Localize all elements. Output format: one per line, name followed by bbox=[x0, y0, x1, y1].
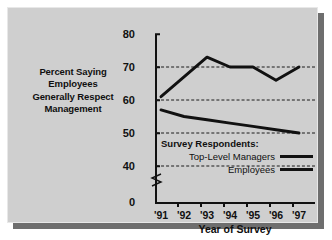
x-tick-label-97: '97 bbox=[292, 209, 306, 221]
x-tick-mark-94 bbox=[246, 202, 248, 207]
y-tick-label-40: 40 bbox=[123, 160, 139, 172]
x-tick-mark-96 bbox=[292, 202, 294, 207]
series-lines bbox=[139, 26, 319, 226]
chart-legend: Survey Respondents: Top-Level Managers E… bbox=[161, 138, 313, 176]
title-line-1: Percent Saying bbox=[18, 66, 128, 78]
x-axis-title: Year of Survey bbox=[155, 223, 315, 235]
title-line-3: Generally Respect bbox=[18, 91, 128, 103]
x-tick-label-95: '95 bbox=[246, 209, 260, 221]
title-line-2: Employees bbox=[18, 78, 128, 90]
y-tick-label-50: 50 bbox=[123, 127, 139, 139]
chart-figure: Percent Saying Employees Generally Respe… bbox=[0, 0, 332, 240]
title-line-4: Management bbox=[18, 103, 128, 115]
legend-swatch-employees bbox=[280, 168, 313, 172]
y-tick-label-0: 0 bbox=[129, 196, 139, 208]
legend-swatch-top-level-managers bbox=[280, 155, 313, 158]
x-tick-mark-93 bbox=[223, 202, 225, 207]
x-tick-label-94: '94 bbox=[223, 209, 237, 221]
x-tick-label-93: '93 bbox=[200, 209, 214, 221]
legend-title: Survey Respondents: bbox=[161, 138, 313, 149]
x-tick-mark-91 bbox=[177, 202, 179, 207]
x-tick-mark-92 bbox=[200, 202, 202, 207]
legend-label-employees: Employees bbox=[228, 164, 275, 175]
legend-label-top-level-managers: Top-Level Managers bbox=[189, 151, 275, 162]
y-tick-label-60: 60 bbox=[123, 94, 139, 106]
chart-panel: Percent Saying Employees Generally Respe… bbox=[7, 7, 318, 223]
x-tick-label-91: '91 bbox=[154, 209, 168, 221]
x-tick-label-96: '96 bbox=[269, 209, 283, 221]
y-tick-label-80: 80 bbox=[123, 28, 139, 40]
x-tick-label-92: '92 bbox=[177, 209, 191, 221]
y-tick-label-70: 70 bbox=[123, 61, 139, 73]
series-line-top-level-managers bbox=[161, 57, 299, 97]
legend-item-employees: Employees bbox=[161, 163, 313, 176]
x-tick-mark-95 bbox=[269, 202, 271, 207]
page-title: Percent Saying Employees Generally Respe… bbox=[18, 66, 128, 116]
plot-area: 80 70 60 50 40 0 bbox=[139, 26, 319, 226]
legend-item-top-level-managers: Top-Level Managers bbox=[161, 150, 313, 163]
series-line-employees bbox=[161, 110, 299, 133]
